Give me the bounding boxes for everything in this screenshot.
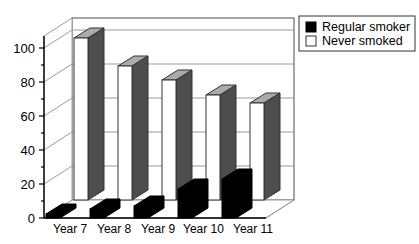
bar-never-smoked-year-7 — [74, 28, 104, 200]
x-tick-label-year-10: Year 10 — [183, 222, 224, 236]
left-wall — [44, 18, 72, 218]
legend-label-regular-smoker: Regular smoker — [322, 20, 410, 34]
x-tick-label-year-7: Year 7 — [53, 222, 88, 236]
x-tick-label-year-9: Year 9 — [141, 222, 176, 236]
bar-chart: 100 80 60 40 20 0 — [0, 0, 419, 244]
y-tick-label-20: 20 — [21, 177, 35, 192]
bar-regular-smoker-year-11 — [222, 169, 252, 218]
y-tick-label-60: 60 — [21, 109, 35, 124]
y-tick-label-40: 40 — [21, 143, 35, 158]
y-axis: 100 80 60 40 20 0 — [13, 36, 44, 226]
y-axis-ticks — [39, 48, 44, 218]
bar-never-smoked-year-9 — [162, 70, 192, 200]
bar-never-smoked-year-11 — [250, 93, 280, 200]
legend-swatch-regular-smoker — [306, 22, 316, 32]
legend-label-never-smoked: Never smoked — [322, 34, 403, 48]
x-tick-label-year-11: Year 11 — [233, 222, 273, 236]
legend: Regular smoker Never smoked — [299, 16, 415, 51]
y-tick-label-0: 0 — [28, 211, 35, 226]
y-tick-label-100: 100 — [13, 41, 35, 56]
floor-plane — [44, 200, 294, 218]
x-axis-labels: Year 7 Year 8 Year 9 Year 10 Year 11 — [53, 222, 273, 236]
legend-swatch-never-smoked — [306, 36, 316, 46]
bar-never-smoked-year-8 — [118, 56, 148, 200]
y-tick-label-80: 80 — [21, 75, 35, 90]
x-tick-label-year-8: Year 8 — [97, 222, 132, 236]
chart-canvas: 100 80 60 40 20 0 — [0, 0, 419, 244]
